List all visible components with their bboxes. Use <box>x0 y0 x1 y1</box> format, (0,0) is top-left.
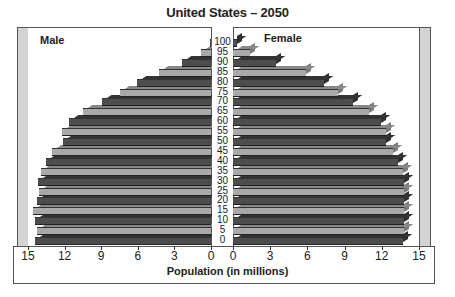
age-label: 90 <box>212 57 233 67</box>
x-tick-label-right: 12 <box>372 249 392 263</box>
female-bar-age-0 <box>233 237 403 245</box>
female-bar-age-45 <box>233 148 393 156</box>
female-bar-age-40 <box>233 158 398 166</box>
male-bar-age-80 <box>137 79 211 87</box>
female-bar-age-50 <box>233 138 386 146</box>
male-bar-age-15 <box>33 207 211 215</box>
age-label: 70 <box>212 96 233 106</box>
female-bar-age-55 <box>233 128 386 136</box>
female-bar-age-30 <box>233 178 404 186</box>
male-bar-age-45 <box>52 148 211 156</box>
x-tick-label-left: 9 <box>91 249 111 263</box>
male-bar-age-65 <box>83 108 211 116</box>
age-label: 25 <box>212 186 233 196</box>
age-label: 95 <box>212 47 233 57</box>
male-label: Male <box>40 34 64 46</box>
x-tick-label-left: 0 <box>201 249 221 263</box>
age-label: 45 <box>212 146 233 156</box>
female-bar-age-80 <box>233 79 324 87</box>
male-bar-age-95 <box>201 49 211 57</box>
male-bar-age-40 <box>46 158 211 166</box>
age-label: 65 <box>212 106 233 116</box>
x-tick-label-left: 15 <box>18 249 38 263</box>
age-axis: 0510152025303540455055606570758085909510… <box>212 37 233 252</box>
male-bar-age-60 <box>69 118 211 126</box>
age-label: 80 <box>212 77 233 87</box>
chart-title: United States – 2050 <box>0 5 455 20</box>
male-bar-age-90 <box>182 59 211 67</box>
x-tick-label-right: 15 <box>409 249 429 263</box>
age-label: 5 <box>212 225 233 235</box>
age-label: 60 <box>212 116 233 126</box>
x-tick-label-left: 3 <box>164 249 184 263</box>
female-bar-age-25 <box>233 188 404 196</box>
x-axis-label: Population (in millions) <box>0 265 455 277</box>
x-tick-label-right: 0 <box>223 249 243 263</box>
age-label: 100 <box>212 37 233 47</box>
male-bar-age-35 <box>41 168 211 176</box>
age-label: 20 <box>212 195 233 205</box>
female-bar-age-10 <box>233 217 404 225</box>
female-bar-age-35 <box>233 168 403 176</box>
age-label: 55 <box>212 126 233 136</box>
age-label: 10 <box>212 215 233 225</box>
x-tick-label-left: 6 <box>128 249 148 263</box>
female-bar-age-15 <box>233 207 404 215</box>
female-bar-age-90 <box>233 59 276 67</box>
female-bar-age-60 <box>233 118 381 126</box>
male-bar-age-10 <box>35 217 211 225</box>
x-tick-label-left: 12 <box>55 249 75 263</box>
age-label: 0 <box>212 235 233 245</box>
female-label: Female <box>264 32 302 44</box>
age-label: 40 <box>212 156 233 166</box>
male-bar-age-0 <box>35 237 211 245</box>
male-bar-age-50 <box>63 138 211 146</box>
age-label: 85 <box>212 67 233 77</box>
age-label: 35 <box>212 166 233 176</box>
age-label: 75 <box>212 87 233 97</box>
female-bar-age-85 <box>233 69 306 77</box>
male-bar-age-20 <box>37 197 211 205</box>
male-bar-age-30 <box>38 178 211 186</box>
right-side-wall <box>419 27 431 247</box>
male-bar-age-85 <box>159 69 211 77</box>
female-bar-age-75 <box>233 89 338 97</box>
x-tick-label-right: 6 <box>297 249 317 263</box>
female-bar-age-5 <box>233 227 404 235</box>
male-bar-age-5 <box>37 227 211 235</box>
male-bar-age-55 <box>62 128 211 136</box>
female-bar-age-95 <box>233 49 250 57</box>
female-bar-age-65 <box>233 108 369 116</box>
age-label: 15 <box>212 205 233 215</box>
age-label: 50 <box>212 136 233 146</box>
male-bar-age-70 <box>102 98 211 106</box>
male-bar-age-100 <box>210 39 211 47</box>
male-bar-age-75 <box>120 89 212 97</box>
male-bar-age-25 <box>39 188 211 196</box>
x-tick-label-right: 3 <box>260 249 280 263</box>
female-bar-age-70 <box>233 98 353 106</box>
x-tick-label-right: 9 <box>335 249 355 263</box>
female-bar-age-20 <box>233 197 404 205</box>
age-label: 30 <box>212 176 233 186</box>
